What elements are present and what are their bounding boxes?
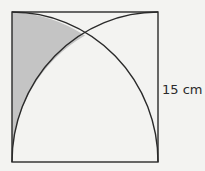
shaded-region bbox=[12, 12, 85, 162]
geometry-diagram: 15 cm bbox=[0, 0, 205, 171]
side-length-label: 15 cm bbox=[162, 82, 203, 97]
